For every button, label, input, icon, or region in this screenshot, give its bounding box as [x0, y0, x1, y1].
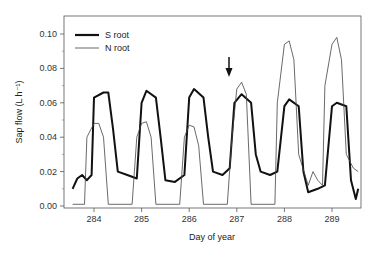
y-tick-label: 0.06	[39, 98, 57, 108]
x-axis: 284285286287288289	[86, 208, 339, 224]
arrow-annotation	[226, 57, 233, 77]
x-tick-label: 285	[134, 214, 149, 224]
y-tick-label: 0.02	[39, 167, 57, 177]
x-tick-label: 287	[229, 214, 244, 224]
y-tick-label: 0.00	[39, 201, 57, 211]
x-axis-title: Day of year	[189, 232, 235, 242]
x-tick-label: 288	[277, 214, 292, 224]
legend-label-s-root: S root	[105, 30, 130, 40]
x-tick-label: 286	[182, 214, 197, 224]
series-n-root	[73, 37, 359, 204]
y-tick-label: 0.10	[39, 29, 57, 39]
x-tick-label: 284	[86, 214, 101, 224]
legend: S root N root	[75, 30, 130, 53]
y-axis: 0.000.020.040.060.080.10	[39, 29, 64, 211]
y-axis-title: Sap flow (L h⁻¹)	[14, 80, 24, 143]
arrow-down-icon	[226, 68, 233, 77]
x-tick-label: 289	[324, 214, 339, 224]
series-lines	[73, 37, 359, 204]
y-tick-label: 0.04	[39, 132, 57, 142]
sap-flow-chart: 0.000.020.040.060.080.10 284285286287288…	[0, 0, 375, 258]
y-tick-label: 0.08	[39, 63, 57, 73]
legend-label-n-root: N root	[105, 43, 130, 53]
series-s-root	[73, 89, 359, 199]
